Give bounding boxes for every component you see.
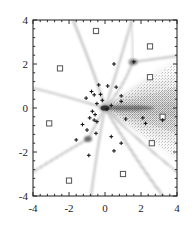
- square-marker: [57, 66, 62, 71]
- square-marker: [66, 178, 71, 183]
- square-marker: [149, 141, 154, 146]
- secondary-density: [84, 136, 92, 142]
- y-tick-label: -4: [19, 191, 28, 202]
- y-tick-label: 4: [23, 15, 29, 26]
- x-tick-label: 2: [138, 203, 144, 214]
- y-tick-label: 0: [23, 103, 29, 114]
- core-streak: [102, 105, 154, 110]
- y-tick-label: 2: [23, 59, 29, 70]
- x-tick-label: 0: [102, 203, 108, 214]
- x-tick-label: -2: [64, 203, 73, 214]
- square-marker: [120, 171, 125, 176]
- scatter-plot-figure: -4-2024 -4-2024: [0, 0, 195, 229]
- y-tick-label: -2: [19, 147, 28, 158]
- x-tick-label: -4: [28, 203, 37, 214]
- square-marker: [93, 28, 98, 33]
- plot-canvas: [0, 0, 195, 229]
- square-marker: [147, 75, 152, 80]
- square-marker: [47, 121, 52, 126]
- x-tick-label: 4: [174, 203, 180, 214]
- square-marker: [147, 44, 152, 49]
